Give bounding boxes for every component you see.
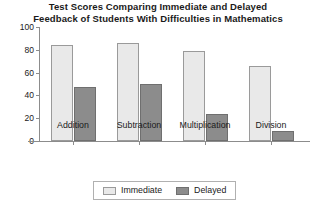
y-axis-label: 40	[8, 91, 34, 100]
legend-label-delayed: Delayed	[194, 186, 226, 195]
plot-area: 020406080100	[0, 27, 316, 155]
y-axis-label: 20	[8, 114, 34, 123]
x-axis-tick	[271, 141, 272, 145]
x-axis-line	[28, 141, 310, 142]
x-axis-tick	[139, 141, 140, 145]
legend-swatch-immediate	[103, 187, 116, 195]
y-axis-label: 60	[8, 69, 34, 78]
chart-legend: Immediate Delayed	[93, 181, 236, 200]
x-axis-tick	[205, 141, 206, 145]
chart-title: Test Scores Comparing Immediate and Dela…	[0, 1, 316, 24]
x-axis-label-multiplication: Multiplication	[172, 120, 238, 130]
y-axis-tick-labels: 020406080100	[8, 27, 34, 141]
chart-title-line-2: Feedback of Students With Difficulties i…	[0, 13, 316, 25]
y-axis-label: 100	[8, 23, 34, 32]
y-axis-label: 80	[8, 46, 34, 55]
legend-item-immediate: Immediate	[103, 186, 162, 195]
chart-title-line-1: Test Scores Comparing Immediate and Dela…	[0, 1, 316, 13]
bar-chart: Test Scores Comparing Immediate and Dela…	[0, 0, 316, 209]
legend-label-immediate: Immediate	[121, 186, 162, 195]
x-axis-label-addition: Addition	[40, 120, 106, 130]
x-axis-label-division: Division	[238, 120, 304, 130]
x-axis-tick	[73, 141, 74, 145]
x-axis-category-labels: AdditionSubtractionMultiplicationDivisio…	[40, 120, 304, 134]
x-axis-label-subtraction: Subtraction	[106, 120, 172, 130]
legend-swatch-delayed	[176, 187, 189, 195]
legend-item-delayed: Delayed	[176, 186, 226, 195]
